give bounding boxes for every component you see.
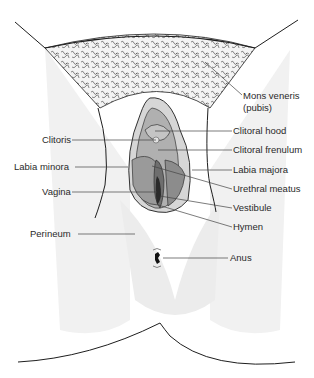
label-perineum: Perineum: [30, 228, 71, 239]
label-mons-veneris: Mons veneris: [243, 90, 300, 101]
label-clitoral-hood: Clitoral hood: [233, 125, 286, 136]
label-mons-pubis: (pubis): [243, 102, 272, 113]
label-urethral-meatus: Urethral meatus: [233, 183, 301, 194]
label-clitoral-frenulum: Clitoral frenulum: [233, 144, 302, 155]
label-hymen: Hymen: [233, 221, 263, 232]
label-labia-majora: Labia majora: [233, 164, 288, 175]
label-anus: Anus: [230, 252, 252, 263]
label-vagina: Vagina: [42, 186, 71, 197]
label-vestibule: Vestibule: [233, 202, 272, 213]
vulva-illustration: [129, 98, 190, 213]
label-clitoris: Clitoris: [42, 134, 71, 145]
label-labia-minora: Labia minora: [14, 161, 69, 172]
